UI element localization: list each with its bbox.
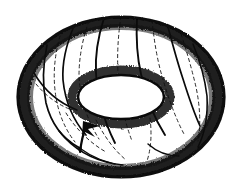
torus-figure: Torus with oriented meridian curve Hand-… bbox=[0, 0, 240, 193]
torus-inner-hole bbox=[78, 75, 164, 119]
torus-inner-hole-group bbox=[72, 70, 170, 124]
torus-illustration: Torus with oriented meridian curve Hand-… bbox=[0, 0, 240, 193]
arrow-tail-dot bbox=[78, 147, 82, 152]
